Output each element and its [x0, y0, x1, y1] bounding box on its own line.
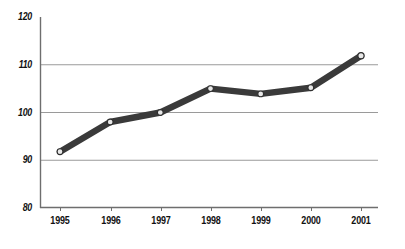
data-point-markers [57, 53, 364, 155]
data-point-1997 [157, 110, 163, 116]
data-point-2000 [308, 85, 314, 91]
data-point-2001 [358, 53, 364, 59]
line-chart: 120 110 100 90 80 1995 1996 1997 1998 19… [0, 0, 405, 249]
data-point-1995 [57, 149, 63, 155]
data-point-1999 [258, 91, 264, 97]
data-line [60, 56, 361, 152]
data-series-index [60, 56, 361, 152]
data-point-1996 [107, 119, 113, 125]
chart-plot-area [0, 0, 405, 249]
data-point-1998 [208, 86, 214, 92]
